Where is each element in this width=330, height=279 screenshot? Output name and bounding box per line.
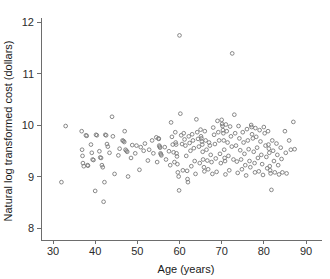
data-point — [189, 149, 193, 153]
data-point — [246, 139, 250, 143]
data-point — [239, 158, 243, 162]
data-point — [238, 148, 242, 152]
data-point — [279, 146, 283, 150]
data-point — [232, 113, 236, 117]
data-point — [242, 141, 246, 145]
data-point — [155, 160, 159, 164]
x-tick-label: 30 — [47, 245, 59, 257]
data-point — [258, 128, 262, 132]
data-point — [222, 139, 226, 143]
data-point — [261, 173, 265, 177]
data-point — [229, 134, 233, 138]
data-point — [205, 159, 209, 163]
y-tick-label: 8 — [28, 222, 34, 234]
data-point — [177, 189, 181, 193]
x-tick-label: 60 — [173, 245, 185, 257]
data-point — [143, 142, 147, 146]
data-point — [238, 137, 242, 141]
data-point — [168, 163, 172, 167]
data-point — [255, 146, 259, 150]
y-axis-title: Natural log transformed cost (dollars) — [2, 41, 14, 222]
data-point — [192, 146, 196, 150]
data-point — [257, 170, 261, 174]
data-point — [233, 131, 237, 135]
data-point — [270, 139, 274, 143]
data-point — [230, 52, 234, 56]
data-point — [167, 149, 171, 153]
data-point — [235, 160, 239, 164]
data-point — [273, 171, 277, 175]
data-point — [64, 124, 68, 128]
data-point — [138, 168, 142, 172]
data-point — [80, 129, 84, 133]
data-point — [270, 188, 274, 192]
data-point — [110, 115, 114, 119]
y-tick-label: 9 — [28, 171, 34, 183]
data-point — [293, 147, 297, 151]
data-point — [184, 154, 188, 158]
data-point — [184, 144, 188, 148]
data-point — [268, 164, 272, 168]
data-point — [260, 162, 264, 166]
data-point — [80, 148, 84, 152]
data-point — [216, 119, 220, 123]
data-point — [178, 112, 182, 116]
data-point — [276, 163, 280, 167]
data-point — [203, 170, 207, 174]
data-point — [241, 130, 245, 134]
data-points — [60, 34, 297, 204]
data-point — [234, 144, 238, 148]
x-tick-label: 90 — [300, 245, 312, 257]
data-point — [284, 151, 288, 155]
x-tick-label: 80 — [258, 245, 270, 257]
data-point — [214, 157, 218, 161]
data-point — [163, 145, 167, 149]
data-point — [199, 128, 203, 132]
data-point — [205, 148, 209, 152]
data-point — [189, 164, 193, 168]
data-point — [203, 129, 207, 133]
data-point — [209, 153, 213, 157]
data-point — [173, 130, 177, 134]
data-point — [289, 148, 293, 152]
x-tick-label: 40 — [89, 245, 101, 257]
data-point — [142, 149, 146, 153]
data-point — [201, 158, 205, 162]
data-point — [285, 172, 289, 176]
data-point — [130, 143, 134, 147]
data-point — [267, 147, 271, 151]
data-point — [191, 139, 195, 143]
data-point — [228, 125, 232, 129]
data-point — [147, 148, 151, 152]
data-point — [226, 141, 230, 145]
data-point — [201, 150, 205, 154]
data-point — [152, 151, 156, 155]
x-tick-label: 70 — [216, 245, 228, 257]
data-point — [216, 130, 220, 134]
data-point — [176, 171, 180, 175]
data-point — [113, 172, 117, 176]
data-point — [265, 155, 269, 159]
data-point — [93, 189, 97, 193]
data-point — [253, 161, 257, 165]
data-point — [243, 152, 247, 156]
data-point — [280, 157, 284, 161]
x-tick-label: 50 — [131, 245, 143, 257]
data-point — [139, 145, 143, 149]
data-point — [177, 175, 181, 179]
data-point — [194, 172, 198, 176]
scatter-plot-figure: 89101112 30405060708090 Age (years) Natu… — [0, 0, 330, 279]
data-point — [102, 200, 106, 204]
data-point — [271, 149, 275, 153]
data-point — [211, 172, 215, 176]
axis-spine — [41, 18, 322, 240]
data-point — [126, 175, 130, 179]
data-point — [117, 154, 121, 158]
data-point — [275, 153, 279, 157]
data-point — [259, 153, 263, 157]
data-point — [89, 143, 93, 147]
data-point — [266, 129, 270, 133]
y-tick-label: 11 — [23, 68, 34, 80]
data-point — [247, 147, 251, 151]
data-point — [178, 34, 182, 38]
